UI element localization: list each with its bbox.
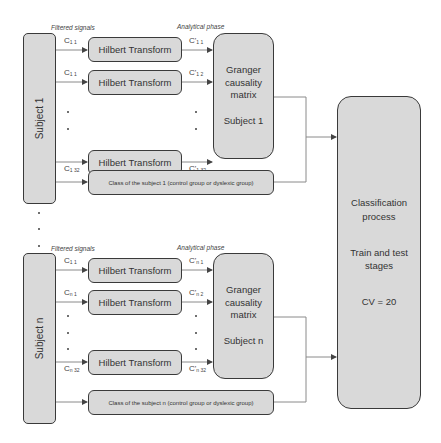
hilbert-transform-box: Hilbert Transform <box>88 290 182 315</box>
analytical-phase-header: Analytical phase <box>177 23 224 30</box>
class-box: Class of the subject 1 (control group or… <box>88 170 274 195</box>
hilbert-transform-box: Hilbert Transform <box>88 37 182 62</box>
ellipsis-dot <box>38 212 40 214</box>
subject-n-box: Subject n <box>23 253 56 424</box>
granger-line: matrix <box>231 309 257 321</box>
classification-title: process <box>362 210 395 224</box>
granger-line: matrix <box>231 89 257 101</box>
granger-line: Granger <box>226 284 261 296</box>
train-test-label: stages <box>365 259 393 273</box>
subject-1-label: Subject 1 <box>34 98 45 140</box>
train-test-label: Train and test <box>350 246 408 260</box>
ellipsis-dot <box>195 332 197 334</box>
input-label: C1 1 <box>64 256 77 265</box>
filtered-signals-header: Filtered signals <box>51 24 95 31</box>
output-label: C'n 32 <box>189 364 206 373</box>
ellipsis-dot <box>67 111 69 113</box>
output-label: C'n 2 <box>189 288 203 297</box>
ellipsis-dot <box>67 332 69 334</box>
class-box: Class of the subject n (control group or… <box>88 390 274 415</box>
ellipsis-dot <box>67 128 69 130</box>
granger-line: causality <box>225 297 262 309</box>
ellipsis-dot <box>38 228 40 230</box>
input-label: C1 1 <box>64 68 77 77</box>
analytical-phase-header-n: Analytical phase <box>177 244 224 251</box>
hilbert-transform-box: Hilbert Transform <box>88 70 182 95</box>
ellipsis-dot <box>195 315 197 317</box>
classification-title: Classification <box>351 196 407 210</box>
ellipsis-dot <box>195 111 197 113</box>
classification-process-box: Classification process Train and test st… <box>337 96 421 409</box>
granger-subject: Subject n <box>224 335 264 347</box>
granger-line: Granger <box>226 64 261 76</box>
output-label: C'n 1 <box>189 256 203 265</box>
input-label: C1 32 <box>64 164 80 173</box>
granger-matrix-box: Granger causality matrix Subject n <box>213 253 274 379</box>
ellipsis-dot <box>195 348 197 350</box>
filtered-signals-header-n: Filtered signals <box>51 245 95 252</box>
output-label: C'1 2 <box>189 68 203 77</box>
hilbert-transform-box: Hilbert Transform <box>88 350 182 375</box>
subject-n-label: Subject n <box>34 318 45 360</box>
ellipsis-dot <box>67 348 69 350</box>
ellipsis-dot <box>38 245 40 247</box>
granger-subject: Subject 1 <box>224 115 264 127</box>
output-label: C'1 1 <box>189 36 203 45</box>
subject-1-box: Subject 1 <box>23 33 56 204</box>
ellipsis-dot <box>195 128 197 130</box>
input-label: C1 1 <box>64 36 77 45</box>
input-label: Cn 32 <box>64 364 80 373</box>
ellipsis-dot <box>67 315 69 317</box>
granger-line: causality <box>225 77 262 89</box>
cv-label: CV = 20 <box>362 295 397 309</box>
granger-matrix-box: Granger causality matrix Subject 1 <box>213 33 274 159</box>
hilbert-transform-box: Hilbert Transform <box>88 258 182 283</box>
input-label: Cn 1 <box>64 288 77 297</box>
